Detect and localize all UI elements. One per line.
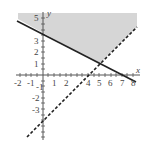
- y-axis-label: y: [46, 8, 51, 18]
- x-tick-label: 6: [108, 78, 113, 88]
- y-tick-label: 1: [34, 59, 39, 69]
- x-tick-label: 1: [52, 78, 57, 88]
- inequality-graph: x y -2 -1 1 2 4 5 6 7 8 5 3 2 1 -1 -2 -3: [0, 0, 148, 148]
- x-tick-label: 4: [86, 78, 91, 88]
- y-tick-label: 3: [34, 36, 39, 46]
- y-tick-label: -3: [32, 105, 40, 115]
- x-tick-label: -2: [14, 78, 22, 88]
- y-tick-label: 2: [34, 47, 39, 57]
- y-tick-label: -1: [36, 82, 44, 92]
- x-tick-labels: -2 -1 1 2 4 5 6 7 8: [14, 78, 136, 88]
- x-tick-label: 5: [97, 78, 102, 88]
- y-tick-label: 5: [34, 13, 39, 23]
- y-tick-label: -2: [32, 93, 40, 103]
- x-tick-label: 8: [131, 78, 136, 88]
- x-axis-label: x: [135, 65, 140, 75]
- x-tick-label: 2: [64, 78, 69, 88]
- x-tick-label: -1: [27, 78, 35, 88]
- x-tick-label: 7: [120, 78, 125, 88]
